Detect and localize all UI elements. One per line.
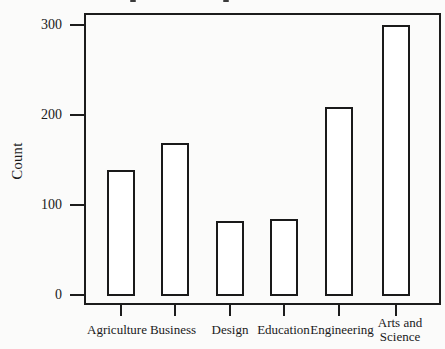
bar-design (216, 221, 244, 296)
y-tick-label-300: 300 (22, 17, 62, 33)
x-tick-mark-education (283, 304, 285, 316)
y-tick-label-0: 0 (22, 287, 62, 303)
x-tick-mark-design (229, 304, 231, 316)
y-tick-mark-200 (70, 114, 85, 116)
x-tick-mark-business (174, 304, 176, 316)
x-tick-mark-agriculture (120, 304, 122, 316)
cropped-title-fragment (223, 0, 229, 2)
bar-arts-and-science (382, 25, 410, 296)
bar-education (270, 219, 298, 296)
y-tick-mark-100 (70, 204, 85, 206)
y-axis-title: Count (9, 143, 26, 180)
bar-chart-figure: Count 300 200 100 0 Agriculture Business… (0, 0, 445, 349)
cropped-title-fragment (130, 0, 136, 2)
bar-agriculture (107, 170, 135, 296)
y-tick-label-200: 200 (22, 107, 62, 123)
bar-business (161, 143, 189, 296)
x-label-arts-and-science: Arts and Science (369, 316, 431, 344)
y-tick-mark-0 (70, 294, 85, 296)
x-tick-mark-engineering (338, 304, 340, 316)
y-tick-label-100: 100 (22, 197, 62, 213)
bar-engineering (325, 107, 353, 296)
y-tick-mark-300 (70, 24, 85, 26)
